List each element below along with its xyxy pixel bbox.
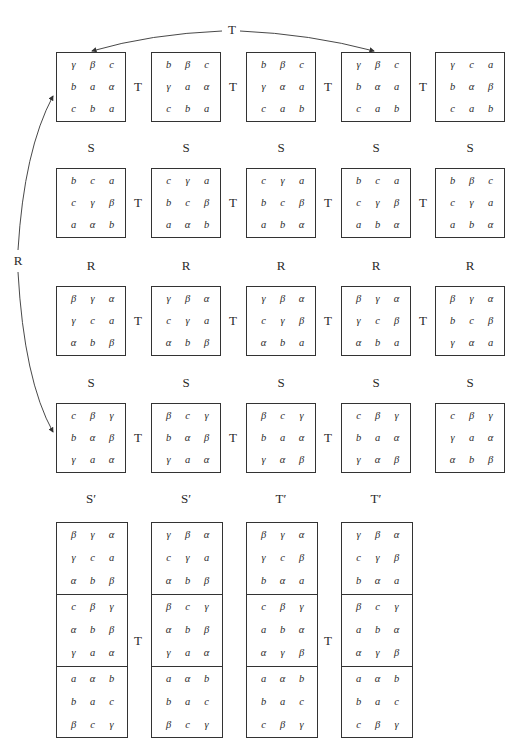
matrix-cell: β xyxy=(385,552,408,563)
matrix-cell: c xyxy=(290,59,313,70)
matrix-cell: α xyxy=(479,432,502,443)
matrix-cell: β xyxy=(290,454,313,465)
matrix-cell: α xyxy=(479,219,502,230)
matrix-cell: a xyxy=(290,175,313,186)
operator-label: T xyxy=(223,313,243,329)
transition-label: R xyxy=(56,258,126,274)
transition-label: S xyxy=(435,140,505,156)
matrix-cell: α xyxy=(385,529,408,540)
transition-label: S xyxy=(246,375,316,391)
left-r-label: R xyxy=(8,253,28,269)
top-t-label: T xyxy=(222,22,242,38)
matrix-cell: β xyxy=(100,624,123,635)
matrix-cell: β xyxy=(290,647,313,658)
block-divider xyxy=(342,666,412,667)
transition-label: T′ xyxy=(246,491,316,507)
matrix-cell: c xyxy=(195,59,218,70)
operator-label: T xyxy=(223,79,243,95)
matrix-cell: c xyxy=(385,696,408,707)
matrix-cell: γ xyxy=(195,410,218,421)
transition-label: R xyxy=(151,258,221,274)
matrix-cell: a xyxy=(195,103,218,114)
matrix-box: βγαbcβγαa xyxy=(435,286,505,356)
matrix-cell: a xyxy=(385,175,408,186)
stacked-matrix: βγαγcaαbβcβγαbβγaαaαbbacβcγ xyxy=(56,522,128,738)
matrix-cell: a xyxy=(100,315,123,326)
block-divider xyxy=(57,594,127,595)
matrix-cell: β xyxy=(100,432,123,443)
matrix-cell: α xyxy=(195,454,218,465)
matrix-box: βcγbaαγαβ xyxy=(246,403,316,473)
matrix-box: cβγγaααbβ xyxy=(435,403,505,473)
matrix-cell: a xyxy=(385,81,408,92)
left-r-arrow-up xyxy=(18,96,53,250)
transition-label: S xyxy=(56,375,126,391)
transition-label: S xyxy=(56,140,126,156)
matrix-cell: a xyxy=(195,315,218,326)
matrix-cell: α xyxy=(290,293,313,304)
matrix-cell: a xyxy=(385,575,408,586)
matrix-box: γβcbαacab xyxy=(341,52,411,122)
matrix-box: cγabcβabα xyxy=(246,168,316,238)
matrix-cell: α xyxy=(290,219,313,230)
matrix-cell: α xyxy=(195,529,218,540)
block-divider xyxy=(247,594,317,595)
matrix-cell: α xyxy=(100,529,123,540)
matrix-cell: c xyxy=(385,59,408,70)
block-divider xyxy=(152,666,222,667)
matrix-cell: β xyxy=(479,454,502,465)
matrix-cell: β xyxy=(195,575,218,586)
transition-label: S xyxy=(341,375,411,391)
block-divider xyxy=(57,666,127,667)
stacked-matrix: γβαcγaαbββcγαbβγaαaαbbacβcγ xyxy=(151,522,223,738)
matrix-cell: β xyxy=(385,197,408,208)
transition-label: R xyxy=(341,258,411,274)
transition-label: S′ xyxy=(56,491,126,507)
matrix-cell: γ xyxy=(290,719,313,730)
matrix-cell: γ xyxy=(290,410,313,421)
matrix-box: βγαγcβαba xyxy=(341,286,411,356)
matrix-cell: α xyxy=(385,293,408,304)
matrix-cell: α xyxy=(195,81,218,92)
matrix-cell: a xyxy=(100,552,123,563)
matrix-cell: a xyxy=(100,175,123,186)
block-divider xyxy=(152,594,222,595)
operator-label: T xyxy=(413,195,433,211)
block-divider xyxy=(342,594,412,595)
matrix-cell: a xyxy=(479,337,502,348)
matrix-cell: b xyxy=(100,219,123,230)
matrix-cell: β xyxy=(479,315,502,326)
matrix-cell: β xyxy=(385,315,408,326)
matrix-cell: β xyxy=(195,624,218,635)
matrix-box: γcabαβcab xyxy=(435,52,505,122)
matrix-cell: β xyxy=(385,454,408,465)
matrix-cell: α xyxy=(385,432,408,443)
matrix-cell: α xyxy=(100,454,123,465)
matrix-cell: γ xyxy=(479,410,502,421)
matrix-cell: α xyxy=(385,219,408,230)
matrix-cell: α xyxy=(479,293,502,304)
matrix-cell: α xyxy=(195,647,218,658)
transition-label: S xyxy=(151,375,221,391)
matrix-cell: β xyxy=(100,337,123,348)
operator-label: T xyxy=(413,313,433,329)
matrix-box: bβccγaabα xyxy=(435,168,505,238)
matrix-cell: b xyxy=(385,103,408,114)
transition-label: S′ xyxy=(151,491,221,507)
transition-label: R xyxy=(246,258,316,274)
matrix-cell: b xyxy=(290,103,313,114)
matrix-cell: γ xyxy=(100,410,123,421)
matrix-cell: γ xyxy=(195,601,218,612)
matrix-cell: a xyxy=(195,175,218,186)
matrix-cell: β xyxy=(195,432,218,443)
matrix-cell: c xyxy=(290,696,313,707)
matrix-cell: b xyxy=(100,673,123,684)
matrix-cell: α xyxy=(290,529,313,540)
matrix-cell: α xyxy=(100,293,123,304)
matrix-cell: c xyxy=(479,175,502,186)
matrix-cell: α xyxy=(290,432,313,443)
operator-label: T xyxy=(128,313,148,329)
top-t-arrow-left xyxy=(92,31,222,51)
matrix-cell: α xyxy=(290,624,313,635)
operator-label: T xyxy=(318,430,338,446)
